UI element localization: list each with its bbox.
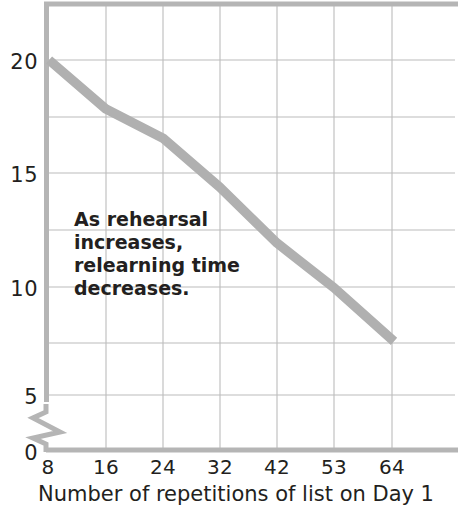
chart-annotation: As rehearsal increases, relearning time … <box>74 208 254 300</box>
annotation-line-3: relearning time <box>74 254 254 277</box>
chart-container: 20 15 10 5 0 8 16 24 32 42 53 64 As rehe… <box>0 0 472 520</box>
x-tick-label-64: 64 <box>370 455 414 479</box>
x-axis-title-text: Number of repetitions of list on Day 1 <box>38 482 434 506</box>
annotation-line-1: As rehearsal <box>74 208 254 231</box>
x-tick-label-8: 8 <box>26 455 70 479</box>
x-tick-label-32: 32 <box>198 455 242 479</box>
y-tick-label-5: 5 <box>0 385 38 409</box>
x-tick-label-24: 24 <box>141 455 185 479</box>
x-tick-label-42: 42 <box>255 455 299 479</box>
y-tick-label-20: 20 <box>0 50 38 74</box>
annotation-line-4: decreases. <box>74 277 254 300</box>
y-tick-label-15: 15 <box>0 163 38 187</box>
x-tick-label-16: 16 <box>84 455 128 479</box>
x-axis-title: Number of repetitions of list on Day 1 <box>0 482 472 506</box>
y-tick-label-10: 10 <box>0 277 38 301</box>
x-tick-label-53: 53 <box>312 455 356 479</box>
annotation-line-2: increases, <box>74 231 254 254</box>
